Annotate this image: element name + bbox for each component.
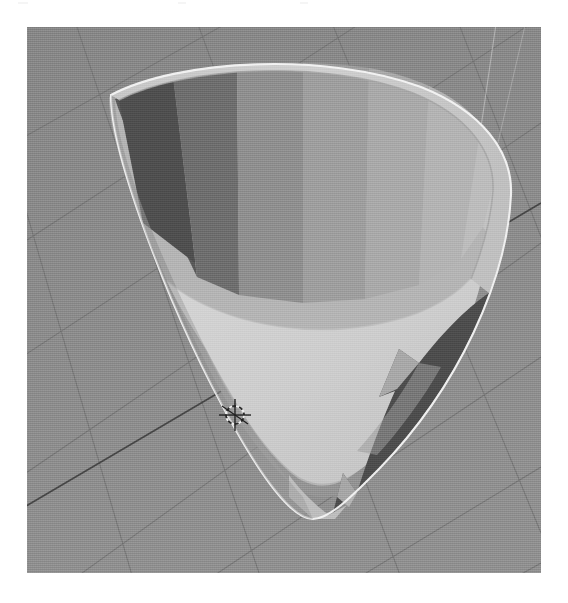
scan-artifact-3: [300, 2, 308, 4]
viewport-3d[interactable]: [27, 27, 541, 573]
facet-band-5: [365, 68, 429, 299]
facet-band-3: [237, 63, 303, 303]
scan-artifact-1: [18, 2, 28, 4]
viewport-canvas[interactable]: [27, 27, 541, 573]
screenshot-root: [0, 0, 568, 603]
scan-artifact-2: [178, 2, 186, 4]
facet-band-4: [303, 63, 369, 303]
